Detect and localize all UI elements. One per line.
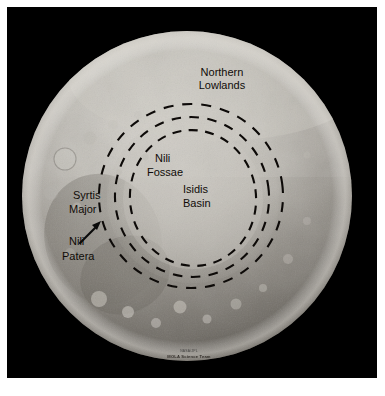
label-nili-patera-line1: Nili (69, 235, 84, 247)
credit-line1: NASA/JPL (180, 349, 198, 353)
label-nili-fossae-line2: Fossae (147, 166, 183, 178)
label-nili-patera-line2: Patera (62, 250, 95, 262)
label-northern-lowlands-line2: Lowlands (199, 79, 246, 91)
label-syrtis-major-line1: Syrtis (73, 189, 101, 201)
limb-highlight (22, 31, 352, 361)
mars-globe-illustration: Northern Lowlands Nili Fossae Isidis Bas… (7, 7, 377, 378)
image-plate: Northern Lowlands Nili Fossae Isidis Bas… (7, 7, 377, 378)
label-northern-lowlands-line1: Northern (201, 66, 244, 78)
label-isidis-basin-line2: Basin (183, 197, 211, 209)
label-isidis-basin-line1: Isidis (183, 183, 209, 195)
credit-line2: MOLA Science Team (167, 354, 211, 359)
figure-root: Northern Lowlands Nili Fossae Isidis Bas… (0, 0, 385, 396)
label-nili-fossae-line1: Nili (155, 152, 170, 164)
label-syrtis-major-line2: Major (69, 203, 97, 215)
